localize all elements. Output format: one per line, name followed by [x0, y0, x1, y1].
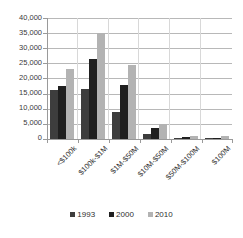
x-axis-label: $100k-$1M — [76, 144, 109, 177]
legend-swatch-icon — [109, 212, 114, 217]
legend-swatch-icon — [148, 212, 153, 217]
x-axis-label: $100M — [210, 144, 233, 167]
legend-label: 2000 — [116, 210, 134, 219]
legend-label: 1993 — [77, 210, 95, 219]
bar-chart: 40,000 35,000 30,000 25,000 20,000 15,00… — [0, 0, 243, 238]
chart-legend: 199320002010 — [0, 210, 243, 219]
legend-swatch-icon — [70, 212, 75, 217]
x-axis-labels: <$100k$100k-$1M$1M-$50M$10M-$50M$50M-$10… — [0, 0, 243, 238]
x-axis-label: <$100k — [54, 144, 78, 168]
legend-item[interactable]: 1993 — [70, 210, 95, 219]
legend-item[interactable]: 2000 — [109, 210, 134, 219]
legend-label: 2010 — [155, 210, 173, 219]
legend-item[interactable]: 2010 — [148, 210, 173, 219]
